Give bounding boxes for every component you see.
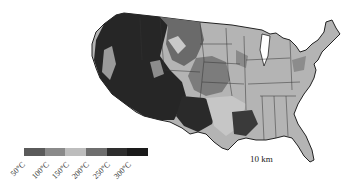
legend-swatch-250: [107, 148, 128, 156]
temperature-legend: [24, 148, 148, 156]
temperature-map: [0, 0, 357, 188]
legend-swatch-150: [65, 148, 86, 156]
legend-swatch-300: [127, 148, 148, 156]
depth-label: 10 km: [250, 154, 273, 164]
legend-swatch-100: [45, 148, 66, 156]
legend-swatch-200: [86, 148, 107, 156]
legend-swatch-50: [24, 148, 45, 156]
